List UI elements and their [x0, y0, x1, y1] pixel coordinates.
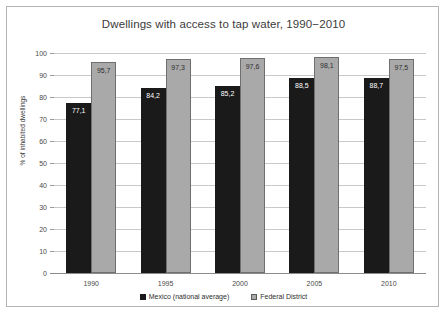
bar-value-label: 97,6	[241, 63, 264, 70]
x-axis-line	[50, 273, 426, 274]
y-axis-tick-label: 90	[39, 72, 47, 79]
y-axis-tick-mark	[50, 53, 54, 54]
bar[interactable]: 98,1	[314, 57, 339, 273]
y-axis-tick-mark	[50, 229, 54, 230]
bar-value-label: 97,5	[390, 64, 413, 71]
y-axis-tick-label: 10	[39, 248, 47, 255]
plot-area: 1009080706050403020100 77,195,784,297,38…	[54, 53, 426, 273]
y-axis-tick-label: 70	[39, 116, 47, 123]
bar-group: 77,195,7	[66, 53, 116, 273]
y-axis-tick-mark	[50, 97, 54, 98]
y-axis-tick-label: 100	[35, 50, 47, 57]
chart-legend: Mexico (national average)Federal Distric…	[7, 293, 440, 300]
y-axis-tick-label: 20	[39, 226, 47, 233]
y-axis-tick-label: 0	[43, 270, 47, 277]
bar-value-label: 77,1	[66, 107, 91, 114]
bar-value-label: 84,2	[141, 92, 166, 99]
y-axis-tick-label: 40	[39, 182, 47, 189]
bar[interactable]: 84,2	[141, 88, 166, 273]
bar-group: 88,797,5	[364, 53, 414, 273]
bar-value-label: 88,5	[289, 82, 314, 89]
legend-swatch-icon	[251, 294, 257, 300]
bar[interactable]: 88,7	[364, 78, 389, 273]
y-axis-tick-label: 50	[39, 160, 47, 167]
y-axis-tick-mark	[50, 185, 54, 186]
chart-title: Dwellings with access to tap water, 1990…	[7, 18, 440, 30]
y-axis-tick-label: 30	[39, 204, 47, 211]
y-axis-tick-label: 80	[39, 94, 47, 101]
bar-value-label: 97,3	[167, 64, 190, 71]
x-axis-tick-label: 1990	[54, 280, 128, 287]
y-axis-tick-mark	[50, 119, 54, 120]
bar-group: 84,297,3	[141, 53, 191, 273]
bar[interactable]: 97,5	[389, 59, 414, 274]
legend-entry[interactable]: Mexico (national average)	[140, 293, 230, 300]
bar-value-label: 95,7	[92, 67, 115, 74]
bar[interactable]: 97,6	[240, 58, 265, 273]
legend-label: Mexico (national average)	[149, 293, 230, 300]
bar[interactable]: 85,2	[215, 86, 240, 273]
y-axis-title: % of inhabited dwellings	[19, 86, 26, 176]
bar[interactable]: 97,3	[166, 59, 191, 273]
y-axis-tick-mark	[50, 251, 54, 252]
x-axis-tick-label: 2010	[352, 280, 426, 287]
bar-group: 85,297,6	[215, 53, 265, 273]
bar-value-label: 98,1	[315, 62, 338, 69]
y-axis-tick-mark	[50, 163, 54, 164]
x-axis-tick-label: 2005	[277, 280, 351, 287]
legend-label: Federal District	[260, 293, 307, 300]
bar[interactable]: 77,1	[66, 103, 91, 273]
bar-value-label: 85,2	[215, 90, 240, 97]
legend-swatch-icon	[140, 294, 146, 300]
y-axis-tick-mark	[50, 75, 54, 76]
x-axis-tick-label: 2000	[203, 280, 277, 287]
legend-entry[interactable]: Federal District	[251, 293, 307, 300]
chart-container: Dwellings with access to tap water, 1990…	[6, 6, 439, 307]
y-axis-tick-label: 60	[39, 138, 47, 145]
y-axis-tick-mark	[50, 141, 54, 142]
y-axis-tick-mark	[50, 207, 54, 208]
bar-group: 88,598,1	[289, 53, 339, 273]
x-axis-tick-label: 1995	[128, 280, 202, 287]
bar[interactable]: 88,5	[289, 78, 314, 273]
bar-value-label: 88,7	[364, 82, 389, 89]
bar[interactable]: 95,7	[91, 62, 116, 273]
